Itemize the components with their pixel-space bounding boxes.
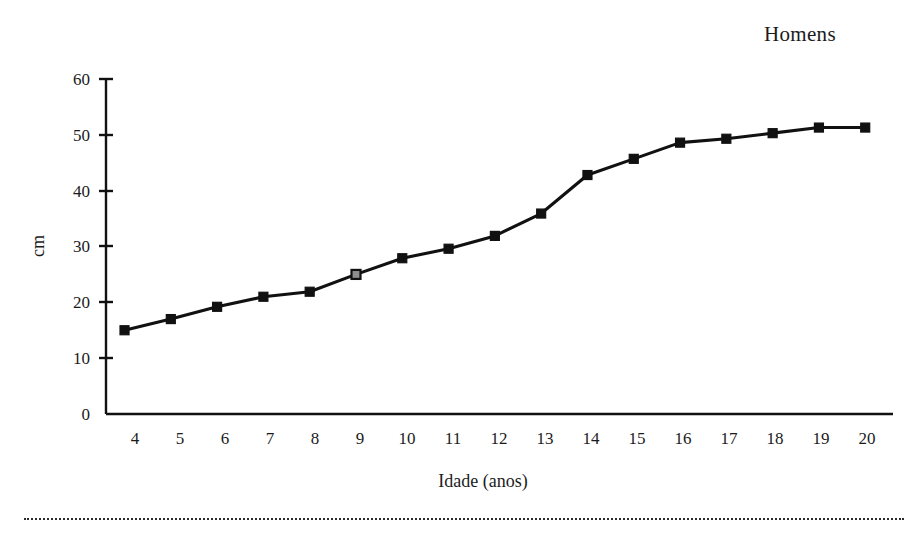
y-tick-label: 40 bbox=[73, 182, 90, 201]
y-axis bbox=[99, 79, 113, 414]
x-tick-label: 17 bbox=[721, 429, 739, 448]
data-point-marker bbox=[490, 231, 499, 240]
y-tick-label: 0 bbox=[82, 405, 91, 424]
line-chart-plot: 60 50 40 30 20 10 0 4 5 6 7 8 9 10 11 12… bbox=[0, 0, 915, 510]
x-tick-label: 20 bbox=[859, 429, 876, 448]
y-tick-label: 50 bbox=[73, 126, 90, 145]
data-point-marker bbox=[768, 129, 777, 138]
x-tick-label: 4 bbox=[131, 429, 140, 448]
data-point-marker bbox=[537, 209, 546, 218]
x-tick-label: 7 bbox=[266, 429, 275, 448]
x-tick-label: 6 bbox=[221, 429, 230, 448]
y-axis-label: cm bbox=[28, 235, 48, 257]
y-tick-label: 60 bbox=[73, 70, 90, 89]
x-tick-label: 12 bbox=[491, 429, 508, 448]
footer-separator bbox=[24, 518, 904, 520]
y-axis-tick-labels: 60 50 40 30 20 10 0 bbox=[73, 70, 90, 424]
x-tick-label: 19 bbox=[813, 429, 830, 448]
data-series-line bbox=[125, 128, 866, 331]
x-tick-label: 16 bbox=[675, 429, 692, 448]
x-tick-label: 5 bbox=[176, 429, 185, 448]
data-point-marker bbox=[722, 134, 731, 143]
data-point-marker bbox=[166, 315, 175, 324]
data-point-marker bbox=[861, 123, 870, 132]
data-point-marker bbox=[444, 244, 453, 253]
data-point-marker bbox=[398, 254, 407, 263]
data-point-marker bbox=[583, 171, 592, 180]
x-tick-label: 13 bbox=[537, 429, 554, 448]
x-axis-tick-labels: 4 5 6 7 8 9 10 11 12 13 14 15 16 17 18 1… bbox=[131, 429, 876, 448]
y-tick-label: 10 bbox=[73, 349, 90, 368]
x-tick-label: 9 bbox=[356, 429, 365, 448]
data-point-marker bbox=[814, 123, 823, 132]
x-tick-label: 8 bbox=[311, 429, 320, 448]
x-tick-label: 14 bbox=[583, 429, 601, 448]
data-point-marker bbox=[305, 287, 314, 296]
y-tick-label: 20 bbox=[73, 293, 90, 312]
data-point-marker bbox=[259, 292, 268, 301]
chart-figure: Homens 60 50 40 30 20 10 0 4 5 6 7 bbox=[0, 0, 915, 533]
data-point-marker bbox=[351, 270, 360, 279]
data-point-marker bbox=[120, 326, 129, 335]
data-point-marker bbox=[213, 302, 222, 311]
x-axis-label: Idade (anos) bbox=[438, 471, 527, 492]
x-tick-label: 11 bbox=[445, 429, 461, 448]
y-tick-label: 30 bbox=[73, 237, 90, 256]
data-point-marker bbox=[676, 138, 685, 147]
x-tick-label: 10 bbox=[399, 429, 416, 448]
x-tick-label: 15 bbox=[629, 429, 646, 448]
x-tick-label: 18 bbox=[767, 429, 784, 448]
data-point-marker bbox=[629, 154, 638, 163]
